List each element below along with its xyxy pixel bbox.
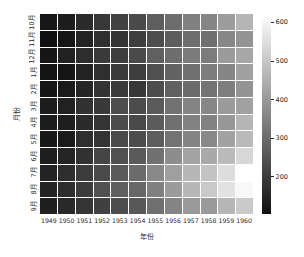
heatmap-cell <box>76 81 93 97</box>
heatmap-cell <box>94 48 111 64</box>
heatmap-cell <box>40 98 57 114</box>
y-axis-tick-text: 6月 <box>27 150 37 161</box>
heatmap-cell <box>236 64 253 80</box>
heatmap-cell <box>201 98 218 114</box>
colorbar-tick-labels: 200300400500600 <box>271 0 304 228</box>
colorbar-tick-mark <box>271 99 274 100</box>
heatmap-cell <box>236 48 253 64</box>
x-axis-tick-label: 1950 <box>58 215 76 227</box>
heatmap-figure: 月份 10月11月12月1月2月3月4月5月6月7月8月9月 194919501… <box>0 0 304 257</box>
y-axis-tick-label: 12月 <box>21 47 38 64</box>
heatmap-cell <box>111 165 128 181</box>
heatmap-cell <box>147 48 164 64</box>
heatmap-cell <box>218 165 235 181</box>
x-axis-tick-label: 1955 <box>147 215 165 227</box>
y-axis-tick-label: 3月 <box>21 97 38 114</box>
heatmap-cell <box>147 182 164 198</box>
heatmap-cell <box>201 165 218 181</box>
heatmap-cell <box>40 148 57 164</box>
heatmap-cell <box>129 115 146 131</box>
y-axis-tick-text: 5月 <box>27 133 37 144</box>
heatmap-cell <box>40 131 57 147</box>
heatmap-cell <box>111 64 128 80</box>
heatmap-cell <box>201 14 218 30</box>
y-axis-tick-labels: 10月11月12月1月2月3月4月5月6月7月8月9月 <box>21 14 38 214</box>
colorbar-tick-text: 500 <box>276 57 288 65</box>
heatmap-cell <box>201 48 218 64</box>
heatmap-cell <box>201 115 218 131</box>
heatmap-cell <box>76 64 93 80</box>
heatmap-cell <box>201 131 218 147</box>
x-axis-tick-label: 1960 <box>235 215 253 227</box>
heatmap-cell <box>129 31 146 47</box>
y-axis-tick-label: 2月 <box>21 81 38 98</box>
x-axis-tick-label: 1957 <box>182 215 200 227</box>
colorbar-tick-text: 300 <box>276 134 288 142</box>
heatmap-cell <box>147 115 164 131</box>
heatmap-cell <box>218 81 235 97</box>
y-axis-tick-label: 1月 <box>21 64 38 81</box>
colorbar-tick-text: 400 <box>276 96 288 104</box>
heatmap-cell <box>165 115 182 131</box>
heatmap-cell <box>183 64 200 80</box>
heatmap-grid <box>40 14 253 214</box>
heatmap-cell <box>218 64 235 80</box>
heatmap-cell <box>94 31 111 47</box>
x-axis-tick-label: 1954 <box>129 215 147 227</box>
heatmap-cell <box>94 64 111 80</box>
heatmap-cell <box>183 115 200 131</box>
heatmap-cell <box>111 81 128 97</box>
heatmap-cell <box>58 148 75 164</box>
heatmap-cell <box>147 14 164 30</box>
heatmap-cell <box>183 131 200 147</box>
heatmap-cell <box>147 198 164 214</box>
heatmap-cell <box>129 81 146 97</box>
x-axis-tick-label: 1949 <box>40 215 58 227</box>
x-axis-title: 年份 <box>40 231 253 241</box>
heatmap-cell <box>111 198 128 214</box>
heatmap-cell <box>129 131 146 147</box>
y-axis-tick-text: 10月 <box>25 15 35 30</box>
heatmap-cell <box>94 115 111 131</box>
heatmap-cell <box>76 115 93 131</box>
heatmap-cell <box>201 64 218 80</box>
colorbar-tick-mark <box>271 138 274 139</box>
heatmap-cell <box>218 198 235 214</box>
heatmap-cell <box>76 14 93 30</box>
x-axis-tick-label: 1953 <box>111 215 129 227</box>
heatmap-cell <box>76 98 93 114</box>
heatmap-cell <box>165 48 182 64</box>
heatmap-cell <box>76 48 93 64</box>
heatmap-cell <box>76 165 93 181</box>
colorbar-tick: 400 <box>271 96 288 104</box>
heatmap-cell <box>218 48 235 64</box>
heatmap-cell <box>94 131 111 147</box>
y-axis-tick-text: 1月 <box>27 67 37 78</box>
heatmap-cell <box>40 182 57 198</box>
heatmap-cell <box>183 48 200 64</box>
heatmap-cell <box>236 131 253 147</box>
x-axis-tick-label: 1956 <box>164 215 182 227</box>
heatmap-cell <box>165 64 182 80</box>
heatmap-cell <box>40 165 57 181</box>
heatmap-cell <box>129 14 146 30</box>
heatmap-cell <box>236 98 253 114</box>
y-axis-tick-text: 3月 <box>27 100 37 111</box>
heatmap-cell <box>165 14 182 30</box>
colorbar-tick-text: 200 <box>276 173 288 181</box>
x-axis-tick-label: 1951 <box>76 215 94 227</box>
heatmap-cell <box>218 115 235 131</box>
heatmap-cell <box>40 115 57 131</box>
heatmap-cell <box>40 31 57 47</box>
heatmap-cell <box>76 31 93 47</box>
heatmap-cell <box>58 31 75 47</box>
heatmap-cell <box>165 182 182 198</box>
heatmap-cell <box>76 131 93 147</box>
heatmap-cell <box>40 198 57 214</box>
heatmap-cell <box>218 148 235 164</box>
heatmap-cell <box>147 148 164 164</box>
heatmap-cell <box>129 64 146 80</box>
heatmap-cell <box>183 31 200 47</box>
heatmap-cell <box>58 98 75 114</box>
y-axis-tick-label: 10月 <box>21 14 38 31</box>
